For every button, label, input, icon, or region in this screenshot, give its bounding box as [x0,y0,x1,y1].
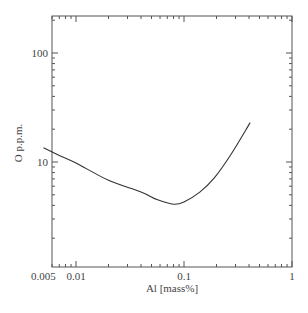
x-tick-label: 1 [289,270,295,282]
x-tick-labels: 0.0050.010.11 [31,270,295,282]
x-axis-label: Al [mass%] [146,282,198,294]
plot-frame [52,16,292,267]
x-axis-ticks [52,16,292,267]
x-tick-label: 0.1 [177,270,191,282]
y-tick-label: 10 [37,156,49,168]
y-axis-label: O p.p.m. [12,124,24,163]
chart: 0.0050.010.11 10100 Al [mass%] O p.p.m. [0,0,308,313]
y-tick-labels: 10100 [32,47,49,168]
data-line [44,123,251,205]
y-axis-ticks [52,20,292,238]
x-tick-label: 0.005 [31,270,56,282]
x-tick-label: 0.01 [66,270,85,282]
y-tick-label: 100 [32,47,49,59]
